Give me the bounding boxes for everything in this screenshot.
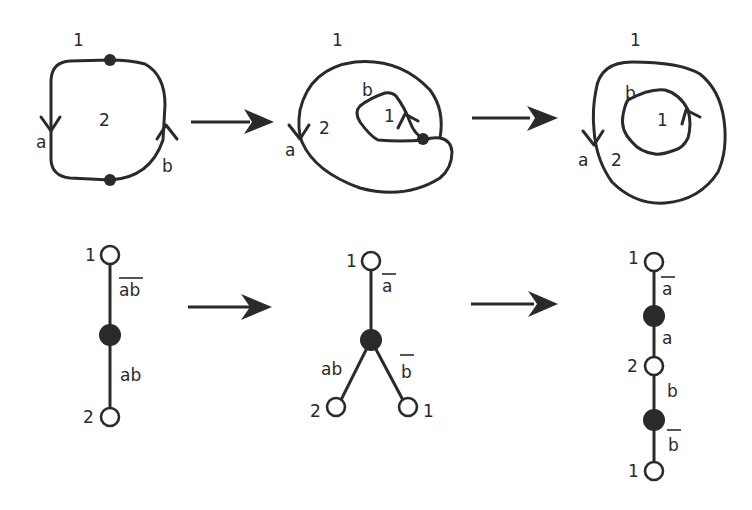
edge-label-4: b: [668, 435, 679, 455]
vertex-open-2: [645, 357, 663, 375]
edge-label-b: b: [625, 83, 636, 103]
vertex-filled: [360, 329, 382, 351]
vertex-label-right: 1: [423, 401, 434, 421]
bottom-graph-3: 1 2 1 a a b b: [627, 248, 681, 481]
edge-label-upper: ab: [119, 280, 140, 300]
bottom-graph-2: 1 2 1 a ab b: [310, 251, 434, 421]
edge-label-a: a: [285, 140, 295, 160]
up-arrow-icon: [157, 125, 177, 139]
vertex-dot-bottom: [104, 174, 116, 186]
region-label-outer: 1: [630, 30, 641, 50]
region-label-inner: 1: [657, 110, 668, 130]
vertex-filled: [99, 324, 121, 346]
region-label-middle: 2: [319, 118, 330, 138]
transition-arrow-bottom-1: [188, 294, 272, 320]
diagram-svg: 1 2 a b 1 2 1 a b 1 2 1 a b: [0, 0, 752, 510]
top-panel-1: 1 2 a b: [36, 30, 177, 186]
edge-label-b: b: [162, 156, 173, 176]
region-label-inner: 2: [99, 110, 110, 130]
vertex-dot-top: [104, 54, 116, 66]
transition-arrow-bottom-2: [471, 291, 558, 317]
bottom-graph-1: 1 2 ab ab: [83, 245, 143, 427]
up-arrow-icon: [398, 114, 418, 128]
edge-label-1: a: [662, 279, 672, 299]
edge-label-a: a: [36, 132, 46, 152]
vertex-dot: [417, 133, 429, 145]
top-panel-2: 1 2 1 a b: [285, 30, 452, 192]
edge-label-left: ab: [321, 359, 342, 379]
outer-loop-curve: [593, 62, 725, 203]
edge-label-a: a: [578, 150, 588, 170]
edge-label-2: a: [662, 328, 672, 348]
vertex-label-2: 2: [627, 356, 638, 376]
region-label-middle: 2: [611, 150, 622, 170]
vertex-label-top: 1: [85, 245, 96, 265]
edge-label-right: b: [401, 362, 412, 382]
edge-label-top: a: [382, 276, 392, 296]
edge-label-3: b: [667, 381, 678, 401]
edge-label-b: b: [362, 80, 373, 100]
region-label-outer: 1: [73, 30, 84, 50]
transition-arrow-top-2: [472, 106, 558, 131]
vertex-open-top: [101, 246, 119, 264]
region-label-inner: 1: [384, 106, 395, 126]
vertex-label-top: 1: [346, 251, 357, 271]
vertex-label-left: 2: [310, 401, 321, 421]
transition-arrow-top-1: [191, 109, 274, 134]
top-panel-3: 1 2 1 a b: [578, 30, 725, 203]
vertex-open-left: [327, 398, 345, 416]
vertex-label-1: 1: [628, 248, 639, 268]
edge-label-lower: ab: [120, 365, 141, 385]
vertex-open-top: [362, 252, 380, 270]
region-label-outer: 1: [332, 30, 343, 50]
arrowhead-icon: [527, 106, 558, 131]
diagram-canvas: 1 2 a b 1 2 1 a b 1 2 1 a b: [0, 0, 752, 510]
vertex-filled-1: [643, 305, 665, 327]
vertex-open-right: [399, 398, 417, 416]
vertex-open-3: [645, 462, 663, 480]
vertex-label-3: 1: [628, 461, 639, 481]
vertex-open-bottom: [101, 408, 119, 426]
vertex-filled-2: [643, 409, 665, 431]
vertex-label-bottom: 2: [83, 407, 94, 427]
vertex-open-1: [645, 253, 663, 271]
